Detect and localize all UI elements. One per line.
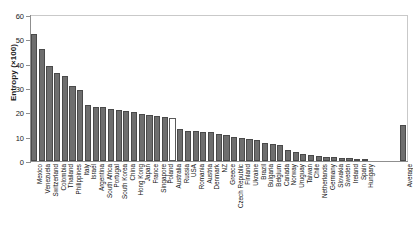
x-tick-label: Thailand bbox=[67, 164, 74, 188]
bar bbox=[346, 158, 352, 161]
bar bbox=[331, 157, 337, 161]
bar bbox=[131, 112, 137, 161]
x-tick-label: Ukraine bbox=[252, 164, 259, 186]
x-tick-label: Philippines bbox=[75, 164, 82, 194]
y-tick-mark bbox=[26, 65, 30, 66]
bar bbox=[77, 90, 83, 161]
x-tick-label: South Africa bbox=[106, 164, 113, 198]
bar bbox=[154, 116, 160, 161]
bar bbox=[300, 154, 306, 161]
bar bbox=[362, 159, 368, 161]
y-tick-label: 20 bbox=[16, 109, 24, 118]
x-tick-label: Hong Kong bbox=[137, 164, 144, 196]
x-tick-label: Romania bbox=[198, 164, 205, 189]
bar bbox=[262, 143, 268, 161]
y-tick-mark bbox=[26, 40, 30, 41]
bar bbox=[223, 135, 229, 161]
x-tick-label: Czech Republic bbox=[237, 164, 244, 208]
y-tick-mark bbox=[26, 89, 30, 90]
bar bbox=[308, 155, 314, 161]
bar bbox=[31, 34, 37, 161]
bar bbox=[246, 139, 252, 161]
y-tick-mark bbox=[26, 138, 30, 139]
y-tick-label: 40 bbox=[16, 60, 24, 69]
x-tick-label: Belgium bbox=[275, 164, 282, 187]
x-tick-label: Germany bbox=[329, 164, 336, 190]
bar bbox=[123, 111, 129, 161]
x-tick-label: Australia bbox=[175, 164, 182, 189]
bar bbox=[139, 114, 145, 161]
bar bbox=[339, 158, 345, 161]
x-tick-label: Austria bbox=[206, 164, 213, 184]
x-tick-label: Japan bbox=[144, 164, 151, 181]
y-tick-mark bbox=[26, 113, 30, 114]
y-tick-label: 60 bbox=[16, 12, 24, 21]
x-tick-label: China bbox=[129, 164, 136, 180]
x-tick-label: Bulgaria bbox=[267, 164, 274, 187]
plot-area: 0102030405060 bbox=[30, 15, 408, 162]
x-tick-label: South Korea bbox=[121, 164, 128, 199]
x-tick-label: Spain bbox=[360, 164, 367, 180]
bar bbox=[54, 73, 60, 161]
bar bbox=[270, 144, 276, 161]
bar bbox=[254, 140, 260, 161]
x-tick-label: Poland bbox=[167, 164, 174, 184]
y-tick-label: 50 bbox=[16, 36, 24, 45]
y-tick-label: 30 bbox=[16, 85, 24, 94]
x-tick-label: Sweden bbox=[344, 164, 351, 187]
x-tick-label: Uruguay bbox=[298, 164, 305, 188]
bar bbox=[277, 145, 283, 161]
y-tick-label: 0 bbox=[20, 158, 24, 167]
bar bbox=[85, 105, 91, 161]
bar bbox=[146, 115, 152, 161]
bar bbox=[62, 76, 68, 161]
x-tick-label: Norway bbox=[290, 164, 297, 185]
x-tick-label: France bbox=[152, 164, 159, 184]
x-tick-label: Singapore bbox=[160, 164, 167, 193]
y-tick-label: 10 bbox=[16, 133, 24, 142]
x-tick-label: Israel bbox=[90, 164, 97, 179]
x-tick-label: Portugal bbox=[113, 164, 120, 187]
x-tick-label: Argentina bbox=[98, 164, 105, 191]
bar bbox=[46, 66, 52, 161]
x-tick-label: Greece bbox=[229, 164, 236, 185]
x-tick-label: Slovakia bbox=[337, 164, 344, 188]
bar bbox=[100, 107, 106, 161]
bar bbox=[285, 150, 291, 161]
bar bbox=[162, 117, 168, 161]
x-tick-label: Switzerland bbox=[52, 164, 59, 197]
bar bbox=[216, 134, 222, 161]
bar bbox=[354, 159, 360, 161]
x-tick-label: NZ bbox=[221, 164, 228, 172]
x-tick-label: Hungary bbox=[367, 164, 374, 188]
x-tick-label: Colombia bbox=[60, 164, 67, 191]
bar bbox=[200, 132, 206, 161]
bar bbox=[177, 129, 183, 161]
bar bbox=[323, 157, 329, 161]
bar bbox=[69, 86, 75, 161]
x-tick-label: Average bbox=[406, 164, 413, 187]
x-tick-label: Mexico bbox=[36, 164, 43, 184]
x-tick-label: Canada bbox=[283, 164, 290, 186]
bar bbox=[116, 110, 122, 161]
x-tick-label: Finland bbox=[244, 164, 251, 185]
x-tick-label: Taiwan bbox=[306, 164, 313, 184]
x-tick-label: Ireland bbox=[352, 164, 359, 183]
bar bbox=[293, 152, 299, 161]
x-tick-label: Brazil bbox=[260, 164, 267, 180]
x-tick-label: Chile bbox=[313, 164, 320, 178]
x-tick-label: Venezuela bbox=[44, 164, 51, 193]
x-axis-line bbox=[30, 161, 408, 162]
bar bbox=[185, 131, 191, 161]
bar bbox=[208, 132, 214, 161]
bar bbox=[400, 125, 406, 162]
x-tick-label: Denmark bbox=[213, 164, 220, 190]
y-tick-mark bbox=[26, 162, 30, 163]
bar bbox=[193, 131, 199, 161]
bar bbox=[39, 49, 45, 161]
bar-series bbox=[31, 15, 408, 161]
x-axis-tick-labels: MexicoVenezuelaSwitzerlandColombiaThaila… bbox=[31, 164, 409, 238]
x-tick-label: USA bbox=[190, 164, 197, 177]
x-tick-label: Russia bbox=[183, 164, 190, 183]
